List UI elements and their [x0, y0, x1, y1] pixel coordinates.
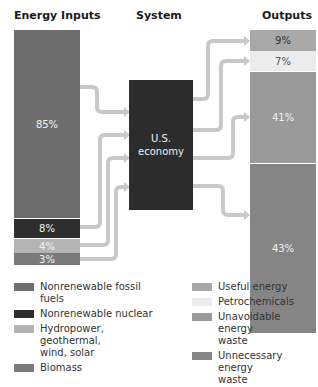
legend-item-fossil-fuels: Nonrenewable fossil fuels — [14, 281, 164, 305]
legend-swatch — [192, 283, 212, 291]
input-renewables-value: 4% — [39, 241, 55, 252]
legend-swatch — [14, 364, 34, 372]
us-economy-box: U.S. economy — [129, 80, 193, 210]
legend-label: Petrochemicals — [218, 296, 294, 308]
legend-label: Biomass — [40, 362, 82, 374]
output-useful-energy-segment: 9% — [250, 30, 316, 51]
legend-label-cont: waste — [218, 374, 317, 386]
legend-label: Nonrenewable nuclear — [40, 308, 153, 320]
legend-label: Unnecessary energy — [218, 350, 317, 374]
legend-label: Unavoidable energy — [218, 311, 317, 335]
legend-item-nuclear: Nonrenewable nuclear — [14, 308, 164, 320]
input-biomass-value: 3% — [39, 254, 55, 265]
legend-label-cont: wind, solar — [40, 347, 164, 359]
legend-swatch — [192, 298, 212, 306]
legend-item-biomass: Biomass — [14, 362, 164, 374]
input-renewables-segment: 4% — [14, 239, 80, 253]
legend-item-renewables: Hydropower, geothermal, wind, solar — [14, 323, 164, 359]
legend-swatch — [192, 313, 212, 321]
legend-swatch — [192, 352, 212, 360]
legend-inputs: Nonrenewable fossil fuels Nonrenewable n… — [14, 281, 164, 377]
input-nuclear-segment: 8% — [14, 219, 80, 238]
output-useful-energy-value: 9% — [275, 35, 291, 46]
input-fossil-fuels-value: 85% — [36, 119, 58, 130]
legend-swatch — [14, 283, 34, 291]
legend-item-petrochemicals: Petrochemicals — [192, 296, 317, 308]
legend-item-useful-energy: Useful energy — [192, 281, 317, 293]
output-unavoidable-waste-value: 41% — [272, 112, 294, 123]
legend-label: Hydropower, geothermal, — [40, 323, 164, 347]
legend-item-unnecessary-waste: Unnecessary energy waste — [192, 350, 317, 386]
output-petrochemicals-value: 7% — [275, 56, 291, 67]
legend-swatch — [14, 325, 34, 333]
legend-label: Nonrenewable fossil fuels — [40, 281, 164, 305]
output-petrochemicals-segment: 7% — [250, 51, 316, 71]
output-unavoidable-waste-segment: 41% — [250, 72, 316, 163]
input-fossil-fuels-segment: 85% — [14, 30, 80, 218]
system-label-line2: economy — [138, 145, 184, 158]
system-label-line1: U.S. — [151, 132, 171, 145]
legend-item-unavoidable-waste: Unavoidable energy waste — [192, 311, 317, 347]
legend-label-cont: waste — [218, 335, 317, 347]
input-biomass-segment: 3% — [14, 253, 80, 265]
output-unnecessary-waste-value: 43% — [272, 243, 294, 254]
legend-swatch — [14, 310, 34, 318]
legend-label: Useful energy — [218, 281, 287, 293]
legend-outputs: Useful energy Petrochemicals Unavoidable… — [192, 281, 317, 387]
input-nuclear-value: 8% — [39, 223, 55, 234]
